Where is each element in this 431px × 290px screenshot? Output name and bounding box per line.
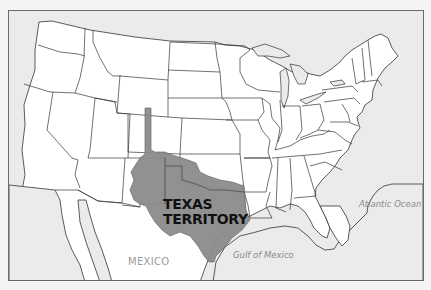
gulf-of-mexico-label: Gulf of Mexico [233,250,294,260]
atlantic-ocean-label: Atlantic Ocean [359,199,421,209]
texas-label-line1: TEXAS [163,197,248,212]
lake-superior [252,44,290,58]
us-map [0,0,431,290]
texas-territory-label: TEXAS TERRITORY [163,197,248,227]
mexico-label: MEXICO [128,256,169,267]
texas-label-line2: TERRITORY [163,212,248,227]
